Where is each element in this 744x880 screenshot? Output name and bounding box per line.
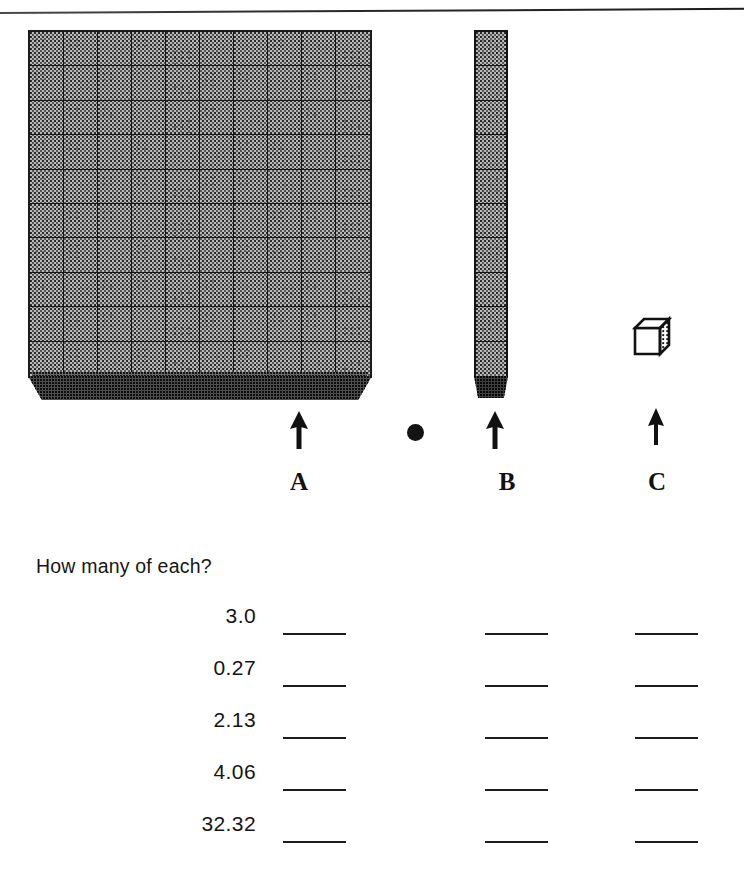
answer-blank-c[interactable] [635,789,698,791]
hundreds-flat-shadow-base [28,376,372,400]
tens-rod-block [474,30,508,378]
table-row: 2.13 [0,704,744,756]
table-row: 3.0 [0,600,744,652]
answer-blank-c[interactable] [635,737,698,739]
answer-blank-a[interactable] [283,737,346,739]
column-label-b: B [487,468,527,496]
column-label-c: C [637,468,677,496]
answer-blank-a[interactable] [283,789,346,791]
question-prompt: How many of each? [36,555,212,578]
row-value: 2.13 [100,708,256,732]
answer-blank-a[interactable] [283,633,346,635]
answer-blank-a[interactable] [283,685,346,687]
up-arrow-icon-b [483,410,507,450]
up-arrow-icon-c [644,406,668,446]
tens-rod-shadow-base [474,376,508,398]
unit-cube-icon [630,314,676,360]
hundreds-flat-block [28,30,372,378]
row-value: 32.32 [100,812,256,836]
table-row: 32.32 [0,808,744,860]
column-label-a: A [279,468,319,496]
answer-blank-b[interactable] [485,633,548,635]
answer-blank-c[interactable] [635,685,698,687]
answer-blank-c[interactable] [635,841,698,843]
table-row: 0.27 [0,652,744,704]
answer-blank-a[interactable] [283,841,346,843]
answer-blank-b[interactable] [485,685,548,687]
row-value: 4.06 [100,760,256,784]
tens-rod-grid [474,30,508,378]
up-arrow-icon-a [287,410,311,450]
row-value: 3.0 [100,604,256,628]
answer-blank-c[interactable] [635,633,698,635]
row-value: 0.27 [100,656,256,680]
table-row: 4.06 [0,756,744,808]
base-ten-blocks-area: A B C [0,0,744,520]
worksheet-page: A B C How many of each? 3.0 0.27 2.13 4.… [0,0,744,880]
decimal-point-marker [407,424,424,441]
answer-blank-b[interactable] [485,789,548,791]
unit-cube-block [630,314,676,360]
answer-blank-b[interactable] [485,737,548,739]
answer-blank-b[interactable] [485,841,548,843]
hundreds-flat-grid [28,30,372,378]
answer-table: 3.0 0.27 2.13 4.06 32.32 [0,600,744,860]
